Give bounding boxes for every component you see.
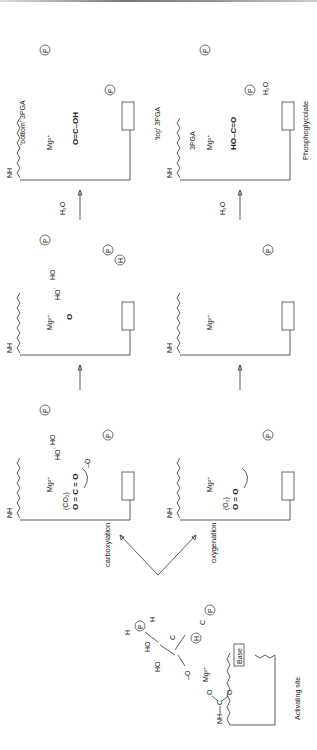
panel-oxygenation-2: NH Mg²⁺ P — [166, 245, 294, 355]
svg-text:H: H — [124, 630, 131, 635]
svg-text:P: P — [265, 433, 272, 438]
svg-text:NH: NH — [6, 343, 13, 353]
svg-text:HO: HO — [49, 269, 56, 280]
svg-text:H₂O: H₂O — [219, 201, 226, 215]
arrow-oxy-1 — [238, 365, 242, 390]
svg-text:Mg²⁺: Mg²⁺ — [206, 476, 214, 492]
svg-text:Mg²⁺: Mg²⁺ — [46, 134, 54, 150]
3pga-label: 3PGA — [189, 131, 196, 150]
svg-text:NH: NH — [6, 508, 13, 518]
svg-text:P: P — [137, 624, 144, 629]
svg-text:HO˙: HO˙ — [154, 659, 161, 672]
svg-text:HO: HO — [49, 434, 56, 445]
svg-text:HO–C=O: HO–C=O — [229, 117, 238, 150]
panel-activating-site: Base NH C O O Mg²⁺ –O HO˙ HO P H P C C H… — [124, 605, 302, 725]
co2-molecule: O = C = O — [71, 474, 80, 510]
svg-text:P: P — [265, 248, 272, 253]
svg-text:C: C — [169, 635, 176, 640]
svg-text:P: P — [207, 608, 214, 613]
svg-text:–O: –O — [184, 670, 191, 680]
svg-text:P: P — [42, 48, 49, 53]
svg-text:P: P — [247, 88, 254, 93]
svg-text:Mg²⁺: Mg²⁺ — [46, 314, 54, 330]
svg-text:P: P — [107, 88, 114, 93]
svg-text:O: O — [206, 689, 213, 695]
svg-text:O=C–OH: O=C–OH — [71, 112, 80, 145]
diagram-canvas: Base NH C O O Mg²⁺ –O HO˙ HO P H P C C H… — [0, 0, 317, 750]
base-label: Base — [236, 648, 243, 664]
carboxylation-label: carboxylation — [103, 523, 112, 567]
svg-text:Mg²⁺: Mg²⁺ — [206, 314, 214, 330]
svg-text:NH: NH — [216, 714, 223, 724]
phosphoglycolate-label: Phosphoglycolate — [301, 101, 310, 160]
svg-text:P: P — [42, 238, 49, 243]
svg-text:P: P — [105, 433, 112, 438]
svg-text:NH: NH — [166, 508, 173, 518]
svg-text:HO˙: HO˙ — [54, 287, 61, 300]
svg-text:C: C — [199, 620, 206, 625]
panel-oxygenation-1: NH Mg²⁺ (O₂) O = O P — [166, 430, 294, 520]
top-3pga-label: 'top' 3PGA — [154, 107, 162, 140]
mechanism-diagram: Base NH C O O Mg²⁺ –O HO˙ HO P H P C C H… — [0, 0, 317, 750]
svg-text:Mg²⁺: Mg²⁺ — [46, 476, 54, 492]
svg-text:P: P — [42, 408, 49, 413]
svg-text:O: O — [226, 689, 233, 695]
svg-text:NH: NH — [6, 168, 13, 178]
svg-text:O: O — [65, 314, 74, 320]
svg-text:(O₂): (O₂) — [222, 497, 230, 510]
water-label: H₂O — [59, 201, 66, 215]
activating-site-label: Activating site — [294, 677, 302, 720]
svg-text:NH: NH — [166, 168, 173, 178]
svg-text:HO: HO — [144, 641, 151, 652]
oxygenation-label: oxygenation — [209, 523, 218, 563]
svg-text:–O: –O — [84, 458, 91, 468]
panel-carboxylation-1: NH Mg²⁺ O = C = O (CO₂) HO˙ HO –O P P — [6, 405, 134, 520]
svg-text:HO˙: HO˙ — [54, 447, 61, 460]
branch-arrows: carboxylation oxygenation — [103, 523, 218, 575]
panel-oxygenation-3: NH Mg²⁺ HO–C=O 3PGA H₂O Phosphoglycolate… — [166, 45, 310, 180]
svg-text:P: P — [105, 248, 112, 253]
arrow-carbox-1 — [78, 365, 82, 390]
svg-text:Mg²⁺: Mg²⁺ — [202, 666, 210, 682]
o2-molecule: O = O — [231, 488, 240, 510]
svg-text:H: H — [149, 617, 156, 622]
bottom-3pga-label: 'bottom' 3PGA — [19, 100, 26, 145]
svg-text:H: H — [117, 258, 124, 263]
svg-text:Mg²⁺: Mg²⁺ — [206, 134, 214, 150]
arrow-carbox-2: H₂O — [59, 190, 82, 220]
svg-text:P: P — [202, 48, 209, 53]
svg-text:H: H — [193, 636, 200, 641]
panel-carboxylation-3: NH Mg²⁺ O=C–OH 'bottom' 3PGA 'top' 3PGA … — [6, 45, 162, 180]
svg-text:NH: NH — [166, 343, 173, 353]
svg-text:H₂O: H₂O — [262, 81, 269, 95]
panel-carboxylation-2: NH Mg²⁺ O HO˙ HO H P P — [6, 235, 134, 355]
svg-text:(CO₂): (CO₂) — [62, 492, 70, 510]
arrow-oxy-2: H₂O — [219, 190, 242, 220]
